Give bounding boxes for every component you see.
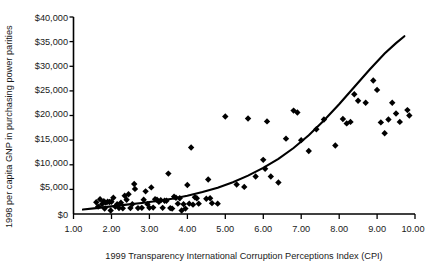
x-tick-label: 9.00 [368, 224, 386, 234]
y-tick-label: $10,000 [35, 158, 68, 168]
data-points [93, 77, 412, 213]
data-point [214, 200, 220, 206]
data-point [252, 173, 258, 179]
y-tick-label: $30,000 [35, 61, 68, 71]
data-point [397, 119, 403, 125]
x-tick-label: 6.00 [254, 224, 272, 234]
data-point [378, 119, 384, 125]
data-point [362, 99, 368, 105]
data-point [131, 181, 137, 187]
x-axis-title: 1999 Transparency International Corrupti… [105, 251, 382, 261]
data-point [196, 200, 202, 206]
y-tick-label: $5,000 [40, 182, 68, 192]
data-point [222, 113, 228, 119]
y-tick-label: $35,000 [35, 37, 68, 47]
data-point [165, 170, 171, 176]
data-point [241, 184, 247, 190]
chart-figure: 1998 per capita GNP in purchasing power … [0, 0, 427, 269]
data-point [175, 200, 181, 206]
x-tick-label: 2.00 [103, 224, 121, 234]
data-point [306, 148, 312, 154]
data-point [150, 204, 156, 210]
data-point [268, 173, 274, 179]
data-point [381, 130, 387, 136]
y-tick-label: $20,000 [35, 109, 68, 119]
y-tick-label: $15,000 [35, 134, 68, 144]
data-point [148, 184, 154, 190]
y-tick-label: $0 [58, 210, 68, 220]
data-point [245, 115, 251, 121]
y-tick-label: $25,000 [35, 85, 68, 95]
data-point [205, 176, 211, 182]
data-point [393, 110, 399, 116]
x-tick-label: 10.00 [402, 224, 425, 234]
y-axis-title: 1998 per capita GNP in purchasing power … [4, 25, 14, 228]
y-tick-labels: $40,000 $35,000 $30,000 $25,000 $20,000 … [35, 13, 68, 220]
data-point [142, 188, 148, 194]
data-point [351, 91, 357, 97]
data-point [283, 135, 289, 141]
data-point [184, 182, 190, 188]
x-tick-label: 3.00 [140, 224, 158, 234]
data-point [159, 205, 165, 211]
x-tick-label: 7.00 [292, 224, 310, 234]
data-point [188, 144, 194, 150]
data-point [132, 186, 138, 192]
data-point [355, 98, 361, 104]
x-tick-label: 8.00 [330, 224, 348, 234]
data-point [139, 205, 145, 211]
data-point [406, 112, 412, 118]
data-point [385, 116, 391, 122]
x-tick-label: 4.00 [178, 224, 196, 234]
data-point [340, 116, 346, 122]
data-point [332, 142, 338, 148]
scatter-plot-svg: 1998 per capita GNP in purchasing power … [0, 0, 427, 269]
data-point [389, 99, 395, 105]
data-point [275, 179, 281, 185]
y-tick-label: $40,000 [35, 13, 68, 23]
data-point [370, 77, 376, 83]
data-point [260, 157, 266, 163]
x-tick-label: 1.00 [65, 224, 83, 234]
data-point [404, 107, 410, 113]
data-point [264, 118, 270, 124]
data-point [107, 207, 113, 213]
trendline [83, 36, 404, 209]
x-tick-labels: 1.00 2.00 3.00 4.00 5.00 6.00 7.00 8.00 … [65, 224, 425, 234]
x-tick-label: 5.00 [216, 224, 234, 234]
data-point [374, 87, 380, 93]
